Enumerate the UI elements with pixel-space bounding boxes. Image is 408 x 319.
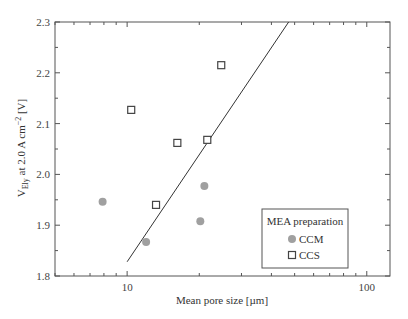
y-tick-label: 1.8 [36,270,50,282]
ccm-point [142,238,150,246]
y-tick-label: 1.9 [36,219,50,231]
legend: MEA preparationCCMCCS [262,209,348,268]
y-axis-label: VEly at 2.0 A cm−2 [V] [14,99,30,197]
y-tick-label: 2.0 [36,168,50,180]
ccm-point [200,182,208,190]
ccs-point [218,62,225,69]
legend-ccs-label: CCS [299,249,320,261]
ccm-point [99,198,107,206]
ccm-point [196,217,204,225]
legend-ccs-marker [289,252,296,259]
ccs-point [153,201,160,208]
y-tick-label: 2.3 [36,16,50,28]
ccs-point [128,106,135,113]
x-tick-label: 100 [359,281,376,293]
y-tick-label: 2.1 [36,118,50,130]
x-tick-label: 10 [122,281,134,293]
y-tick-label: 2.2 [36,67,50,79]
x-axis-label: Mean pore size [µm] [176,294,268,306]
ccs-point [174,139,181,146]
data-points [99,62,225,246]
scatter-chart: 10100 1.81.92.02.12.22.3 Mean pore size … [0,0,408,319]
legend-ccm-marker [288,235,296,243]
legend-title: MEA preparation [267,215,344,227]
legend-ccm-label: CCM [299,233,324,245]
ccs-point [204,136,211,143]
